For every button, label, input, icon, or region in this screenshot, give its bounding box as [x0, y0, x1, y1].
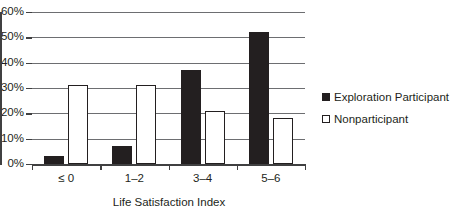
x-axis-tick-mark [305, 165, 306, 170]
x-axis-tick-label: 5–6 [237, 172, 305, 184]
filled-square-icon [322, 93, 330, 101]
x-axis-tick-label: 3–4 [169, 172, 237, 184]
x-axis-tick-mark [32, 165, 33, 170]
bar [205, 111, 225, 164]
bar [68, 85, 88, 164]
y-axis-line [0, 12, 2, 165]
bar [249, 32, 269, 164]
bar [136, 85, 156, 164]
x-axis-tick-mark [169, 165, 170, 170]
hollow-square-icon [322, 115, 330, 123]
bar [273, 118, 293, 164]
bar [44, 156, 64, 164]
plot-area [32, 12, 305, 164]
x-axis-tick-label: ≤ 0 [32, 172, 100, 184]
y-axis-tick-labels: 0%10%20%30%40%50%60% [0, 0, 30, 216]
bar-chart: 0%10%20%30%40%50%60% ≤ 01–23–45–6 Life S… [0, 0, 451, 216]
legend-item-label: Exploration Participant [334, 91, 449, 103]
gridline [32, 12, 305, 13]
x-axis-title: Life Satisfaction Index [32, 196, 306, 208]
legend-item: Exploration Participant [322, 86, 451, 108]
legend-item: Nonparticipant [322, 108, 451, 130]
x-axis-tick-mark [237, 165, 238, 170]
bar [181, 70, 201, 164]
bar [112, 146, 132, 164]
legend-item-label: Nonparticipant [334, 113, 408, 125]
x-axis-tick-label: 1–2 [100, 172, 168, 184]
x-axis-tick-mark [100, 165, 101, 170]
chart-legend: Exploration ParticipantNonparticipant [322, 86, 451, 130]
